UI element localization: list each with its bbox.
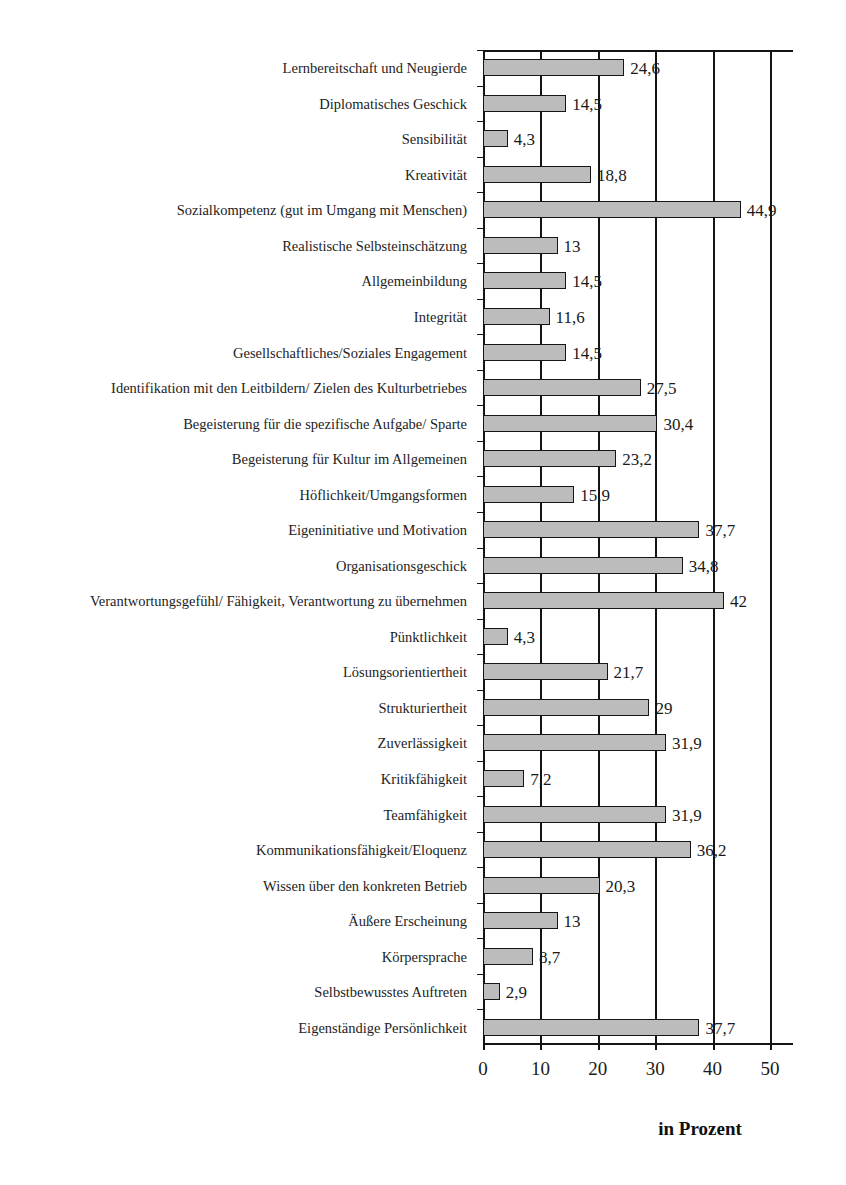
bar (483, 95, 566, 112)
category-label: Verantwortungsgefühl/ Fähigkeit, Verantw… (0, 593, 475, 610)
gridline (598, 50, 600, 1045)
bar (483, 628, 508, 645)
bar-value-label: 18,8 (597, 167, 627, 184)
bar-value-label: 11,6 (556, 309, 585, 326)
category-tick (477, 583, 483, 584)
value-tick-label: 40 (693, 1058, 733, 1080)
bar (483, 841, 691, 858)
value-axis (483, 1043, 793, 1045)
category-tick (477, 938, 483, 939)
bar-value-label: 24,6 (630, 60, 660, 77)
bar (483, 1019, 699, 1036)
bar-value-label: 30,4 (663, 416, 693, 433)
bar-value-label: 37,7 (705, 1020, 735, 1037)
bar (483, 450, 616, 467)
gridline (770, 50, 772, 1045)
category-label: Selbstbewusstes Auftreten (0, 984, 475, 1001)
bar-value-label: 2,9 (506, 984, 527, 1001)
bar-value-label: 23,2 (622, 451, 652, 468)
category-tick (477, 334, 483, 335)
category-tick (477, 974, 483, 975)
bar (483, 912, 558, 929)
category-tick (477, 50, 483, 51)
category-tick (477, 867, 483, 868)
axis-top-rule (483, 50, 793, 52)
category-label: Kommunikationsfähigkeit/Eloquenz (0, 842, 475, 859)
category-label: Allgemeinbildung (0, 273, 475, 290)
bar-value-label: 29 (655, 700, 672, 717)
bar-value-label: 4,3 (514, 629, 535, 646)
bar (483, 237, 558, 254)
bar-value-label: 15,9 (580, 487, 610, 504)
category-tick (477, 441, 483, 442)
category-label: Sensibilität (0, 131, 475, 148)
bar-value-label: 7,2 (530, 771, 551, 788)
bar (483, 877, 600, 894)
bar (483, 415, 657, 432)
category-label: Zuverlässigkeit (0, 735, 475, 752)
category-tick (477, 619, 483, 620)
bar-value-label: 14,5 (572, 345, 602, 362)
category-label: Identifikation mit den Leitbildern/ Ziel… (0, 380, 475, 397)
category-label: Pünktlichkeit (0, 629, 475, 646)
category-tick (477, 832, 483, 833)
category-label: Körpersprache (0, 949, 475, 966)
bar-value-label: 13 (564, 913, 581, 930)
category-tick (477, 903, 483, 904)
bar (483, 308, 550, 325)
bar (483, 130, 508, 147)
category-label: Eigenständige Persönlichkeit (0, 1020, 475, 1037)
value-tick-label: 20 (578, 1058, 618, 1080)
category-tick (477, 654, 483, 655)
category-label-column: Lernbereitschaft und NeugierdeDiplomatis… (0, 50, 475, 1045)
value-tick-label: 30 (635, 1058, 675, 1080)
category-label: Teamfähigkeit (0, 807, 475, 824)
category-tick (477, 1009, 483, 1010)
category-tick (477, 370, 483, 371)
gridline (713, 50, 715, 1045)
bar-value-label: 20,3 (606, 878, 636, 895)
bar (483, 272, 566, 289)
bar (483, 379, 641, 396)
value-tick-label: 10 (520, 1058, 560, 1080)
bar-value-label: 37,7 (705, 522, 735, 539)
bar-value-label: 34,8 (689, 558, 719, 575)
category-tick (477, 157, 483, 158)
bar (483, 663, 608, 680)
category-label: Höflichkeit/Umgangsformen (0, 487, 475, 504)
bar-value-label: 4,3 (514, 131, 535, 148)
bar-value-label: 21,7 (614, 664, 644, 681)
value-tick-label: 50 (750, 1058, 790, 1080)
bar-value-label: 27,5 (647, 380, 677, 397)
bar-value-label: 31,9 (672, 807, 702, 824)
bar (483, 734, 666, 751)
category-label: Kritikfähigkeit (0, 771, 475, 788)
gridline (540, 50, 542, 1045)
value-tick (540, 1043, 542, 1050)
bar-value-label: 44,9 (747, 202, 777, 219)
value-tick (770, 1043, 772, 1050)
gridline (655, 50, 657, 1045)
bar (483, 486, 574, 503)
bar (483, 948, 533, 965)
value-tick (655, 1043, 657, 1050)
category-label: Begeisterung für Kultur im Allgemeinen (0, 451, 475, 468)
category-tick (477, 121, 483, 122)
category-tick (477, 86, 483, 87)
value-tick (713, 1043, 715, 1050)
category-tick (477, 476, 483, 477)
bar-value-label: 31,9 (672, 735, 702, 752)
bar (483, 592, 724, 609)
category-label: Eigeninitiative und Motivation (0, 522, 475, 539)
category-label: Organisationsgeschick (0, 558, 475, 575)
bar-value-label: 36,2 (697, 842, 727, 859)
category-label: Lernbereitschaft und Neugierde (0, 60, 475, 77)
chart-title (0, 0, 846, 4)
bar (483, 806, 666, 823)
category-label: Sozialkompetenz (gut im Umgang mit Mensc… (0, 202, 475, 219)
category-label: Begeisterung für die spezifische Aufgabe… (0, 416, 475, 433)
bar (483, 983, 500, 1000)
category-label: Gesellschaftliches/Soziales Engagement (0, 345, 475, 362)
category-label: Integrität (0, 309, 475, 326)
bar (483, 557, 683, 574)
